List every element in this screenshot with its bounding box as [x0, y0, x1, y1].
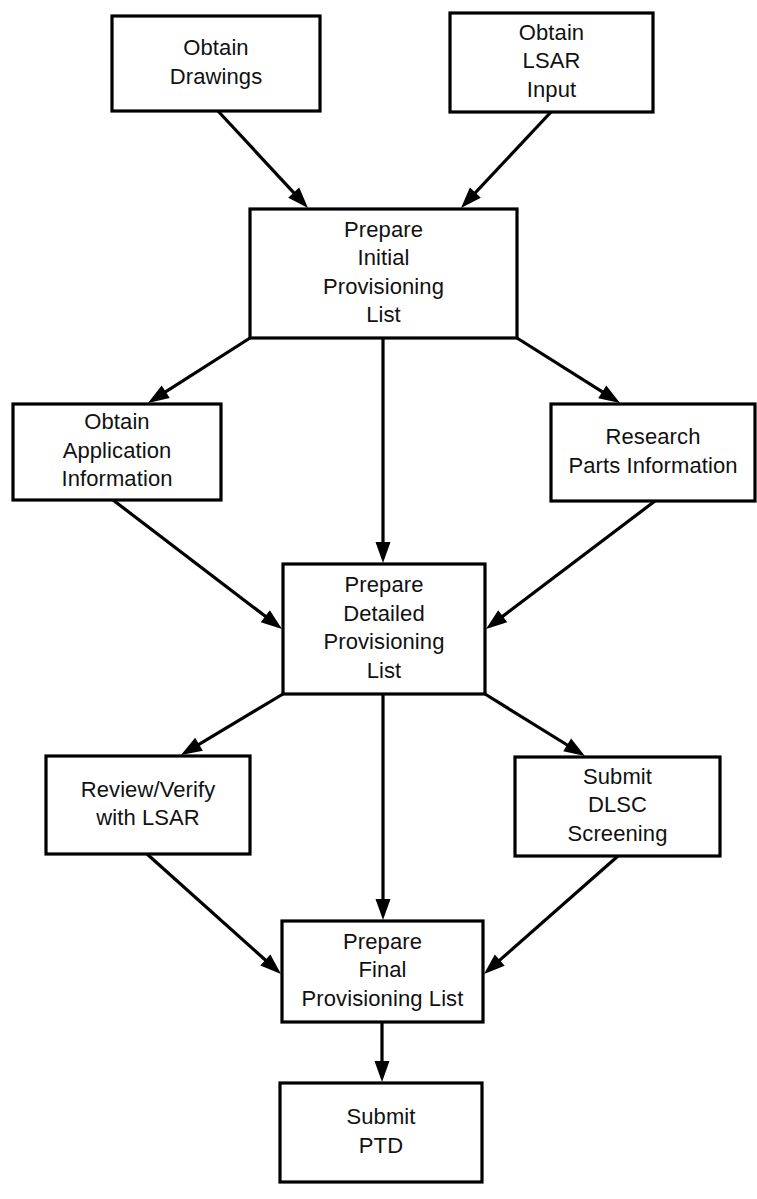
edge-line: [485, 694, 570, 747]
node-submit-dlsc-screening[interactable]: SubmitDLSCScreening: [515, 757, 720, 856]
edge-line: [517, 338, 605, 393]
node-obtain-lsar-input[interactable]: ObtainLSARInput: [450, 13, 653, 112]
node-label-line: Prepare: [344, 217, 423, 242]
node-label-line: Parts Information: [568, 453, 737, 478]
node-label-line: Obtain: [84, 409, 149, 434]
node-label-line: Submit: [346, 1104, 415, 1129]
node-obtain-application-information[interactable]: ObtainApplicationInformation: [13, 404, 221, 500]
edge-line: [500, 501, 655, 618]
node-label-line: Initial: [357, 245, 409, 270]
node-review-verify-with-lsar[interactable]: Review/Verifywith LSAR: [46, 756, 250, 854]
edge-detailed-to-final: [376, 694, 391, 920]
node-label-line: PTD: [359, 1133, 403, 1158]
nodes-layer: ObtainDrawingsObtainLSARInputPrepareInit…: [13, 13, 755, 1182]
arrow-head-icon: [375, 1061, 390, 1082]
node-label-line: Application: [63, 438, 172, 463]
edge-initial-to-research: [517, 338, 620, 403]
node-label-line: LSAR: [523, 48, 581, 73]
edge-detailed-to-dlsc: [485, 694, 585, 756]
edge-application-to-detailed: [113, 500, 282, 629]
node-prepare-detailed-provisioning-list[interactable]: PrepareDetailedProvisioningList: [283, 564, 485, 694]
edge-line: [147, 854, 268, 962]
edge-dlsc-to-final: [484, 856, 618, 974]
node-research-parts-information[interactable]: ResearchParts Information: [551, 404, 755, 501]
node-label-line: Input: [527, 77, 576, 102]
node-label-line: Obtain: [183, 35, 248, 60]
arrow-head-icon: [261, 610, 282, 629]
arrow-head-icon: [148, 385, 170, 403]
node-label-line: Provisioning List: [302, 986, 464, 1011]
edge-detailed-to-review: [181, 694, 283, 755]
arrow-head-icon: [563, 739, 585, 756]
arrow-head-icon: [598, 385, 620, 403]
flowchart-canvas: ObtainDrawingsObtainLSARInputPrepareInit…: [0, 0, 757, 1199]
node-prepare-initial-provisioning-list[interactable]: PrepareInitialProvisioningList: [250, 209, 517, 338]
edge-initial-to-detailed: [376, 338, 391, 563]
node-label-line: Detailed: [343, 601, 425, 626]
arrow-head-icon: [376, 899, 391, 920]
arrow-head-icon: [376, 542, 391, 563]
node-submit-ptd[interactable]: SubmitPTD: [280, 1083, 482, 1182]
edge-review-to-final: [147, 854, 281, 974]
node-label-line: List: [367, 658, 402, 683]
edge-line: [163, 338, 250, 393]
node-label-line: List: [366, 302, 401, 327]
edge-line: [498, 856, 618, 962]
node-label-line: with LSAR: [95, 805, 200, 830]
edge-line: [196, 694, 283, 746]
edge-final-to-ptd: [375, 1022, 390, 1082]
node-label-line: Prepare: [345, 572, 424, 597]
node-obtain-drawings[interactable]: ObtainDrawings: [112, 16, 320, 111]
node-label-line: Information: [61, 466, 172, 491]
node-label-line: Research: [606, 424, 701, 449]
node-label-line: Screening: [568, 821, 668, 846]
edge-drawings-to-initial: [218, 111, 308, 208]
node-prepare-final-provisioning-list[interactable]: PrepareFinalProvisioning List: [282, 921, 483, 1022]
arrow-head-icon: [181, 738, 203, 755]
edge-line: [218, 111, 296, 195]
edge-initial-to-application: [148, 338, 250, 403]
edge-research-to-detailed: [486, 501, 655, 629]
node-label-line: Provisioning: [323, 274, 444, 299]
node-label-line: Obtain: [519, 20, 584, 45]
node-label-line: Review/Verify: [81, 777, 216, 802]
flowchart-svg: ObtainDrawingsObtainLSARInputPrepareInit…: [0, 0, 757, 1199]
node-label-line: Prepare: [343, 929, 422, 954]
arrow-head-icon: [486, 610, 507, 629]
edge-lsar-input-to-initial: [461, 112, 551, 208]
node-label-line: Final: [358, 957, 406, 982]
node-label-line: Provisioning: [323, 629, 444, 654]
node-label-line: Submit: [583, 764, 652, 789]
edge-line: [113, 500, 268, 618]
edge-line: [473, 112, 551, 195]
node-label-line: Drawings: [170, 64, 263, 89]
node-label-line: DLSC: [588, 792, 647, 817]
